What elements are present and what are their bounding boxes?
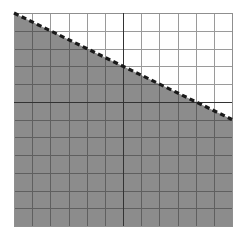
coordinate-graph-figure: Linear inequality graph Shaded region be… (0, 0, 246, 236)
graph-plot-area (0, 0, 246, 236)
